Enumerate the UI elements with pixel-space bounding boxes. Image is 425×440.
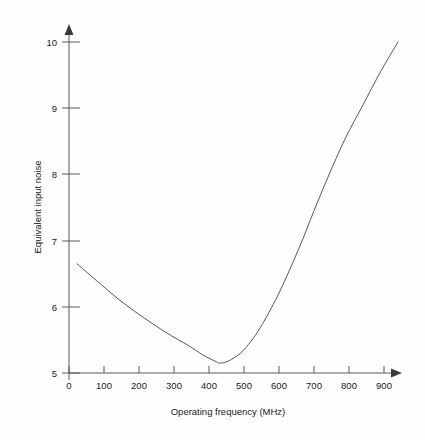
x-tick-label-200: 200: [131, 380, 147, 391]
y-tick-label-8: 8: [52, 169, 57, 180]
x-tick-label-500: 500: [236, 380, 252, 391]
y-tick-label-10: 10: [46, 37, 57, 48]
y-tick-label-6: 6: [52, 302, 57, 313]
x-tick-label-700: 700: [306, 380, 322, 391]
y-tick-label-9: 9: [52, 103, 57, 114]
x-tick-label-800: 800: [341, 380, 357, 391]
x-tick-label-300: 300: [166, 380, 182, 391]
x-tick-label-100: 100: [96, 380, 112, 391]
chart-background: [0, 0, 425, 440]
chart-page: 10 9 8 7 6 5 0 100 200 300 400 500 600 7…: [0, 0, 425, 440]
y-axis-title: Equivalent input noise: [32, 161, 43, 254]
x-tick-label-600: 600: [271, 380, 287, 391]
y-tick-label-5: 5: [52, 368, 57, 379]
x-tick-label-900: 900: [376, 380, 392, 391]
noise-vs-frequency-chart: 10 9 8 7 6 5 0 100 200 300 400 500 600 7…: [0, 0, 425, 440]
y-tick-label-7: 7: [52, 236, 57, 247]
x-axis-title: Operating frequency (MHz): [171, 406, 286, 417]
x-tick-label-0: 0: [66, 380, 71, 391]
x-tick-label-400: 400: [201, 380, 217, 391]
